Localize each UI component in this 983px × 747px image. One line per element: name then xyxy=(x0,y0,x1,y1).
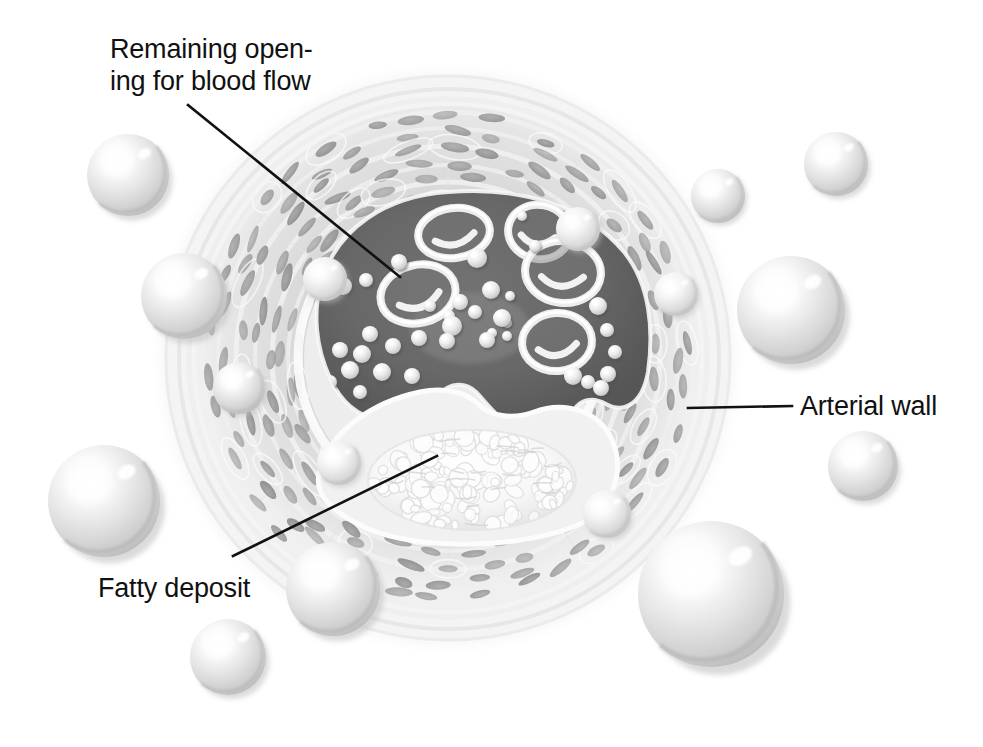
fat-droplet-highlight xyxy=(388,340,393,345)
fat-droplet xyxy=(359,273,373,287)
label-arterial-wall: Arterial wall xyxy=(800,391,937,421)
fat-globule-highlight xyxy=(812,142,843,169)
plaque-lobule xyxy=(492,449,501,458)
fat-droplet xyxy=(385,338,401,354)
fatty-deposit-plaque xyxy=(318,390,617,544)
fat-globule-highlight xyxy=(837,442,871,471)
fat-droplet xyxy=(353,385,367,399)
fat-droplet-highlight xyxy=(426,302,430,306)
fat-droplet-highlight xyxy=(519,213,522,216)
fat-droplet xyxy=(600,323,614,337)
fat-droplet-highlight xyxy=(507,293,510,296)
fat-globule-highlight xyxy=(657,543,727,604)
fat-globule-highlight xyxy=(98,146,137,180)
fat-droplet-highlight xyxy=(414,332,419,337)
fat-droplet-highlight xyxy=(335,344,340,349)
fat-droplet-highlight xyxy=(356,348,362,354)
fat-droplet xyxy=(564,367,582,385)
fat-droplet-highlight xyxy=(611,347,616,352)
fat-droplet-highlight xyxy=(407,370,412,375)
fat-droplet xyxy=(467,248,487,268)
fat-droplet xyxy=(493,309,511,327)
fat-droplet-highlight xyxy=(584,377,589,382)
fat-droplet xyxy=(452,294,468,310)
plaque-lobule xyxy=(490,477,499,486)
fat-globule-highlight xyxy=(200,630,236,662)
fat-droplet xyxy=(439,333,455,349)
fat-droplet-highlight xyxy=(567,370,573,376)
fat-droplet xyxy=(468,305,482,319)
fat-globule-highlight xyxy=(660,279,681,297)
fat-droplet-highlight xyxy=(394,256,399,261)
fat-globule-highlight xyxy=(152,266,193,302)
fat-droplet-highlight xyxy=(471,251,478,258)
fat-droplet xyxy=(411,330,427,346)
fat-droplet-highlight xyxy=(603,368,608,373)
fat-droplet-highlight xyxy=(482,334,487,339)
fat-droplet-highlight xyxy=(362,275,367,280)
atherosclerosis-illustration: Remaining open-ing for blood flowArteria… xyxy=(0,0,983,747)
fat-droplet-highlight xyxy=(592,300,598,306)
fat-droplet-highlight xyxy=(344,364,350,370)
fat-droplet-highlight xyxy=(365,328,370,333)
fat-droplet xyxy=(362,326,378,342)
fat-globule-highlight xyxy=(562,214,583,232)
fat-globule-highlight xyxy=(323,448,344,466)
fat-droplet-highlight xyxy=(376,366,382,372)
fat-globule-highlight xyxy=(309,264,330,282)
fat-droplet xyxy=(589,297,607,315)
plaque-lobule xyxy=(410,505,419,512)
fat-globule-highlight xyxy=(751,272,803,317)
fat-droplet-highlight xyxy=(446,319,453,326)
fat-droplet xyxy=(593,380,609,396)
fat-droplet xyxy=(482,281,500,299)
fat-droplet xyxy=(404,368,420,384)
plaque-crevice xyxy=(533,483,553,484)
fat-droplet xyxy=(353,345,371,363)
fat-globule-highlight xyxy=(63,462,117,509)
fat-droplet xyxy=(479,332,495,348)
fat-droplet-highlight xyxy=(596,382,601,387)
fat-droplet-highlight xyxy=(496,312,502,318)
fat-droplet-highlight xyxy=(356,387,361,392)
fat-droplet xyxy=(581,375,595,389)
fat-droplet-highlight xyxy=(471,307,476,312)
fat-droplet xyxy=(373,363,391,381)
fat-droplet-highlight xyxy=(485,284,491,290)
fat-droplet-highlight xyxy=(603,325,608,330)
fat-droplet xyxy=(517,211,527,221)
fat-droplet xyxy=(391,254,407,270)
fat-droplet xyxy=(332,342,348,358)
fat-droplet-highlight xyxy=(531,242,535,246)
fat-droplet xyxy=(442,316,462,336)
fat-droplet-highlight xyxy=(455,296,460,301)
plaque-lobule xyxy=(552,471,559,482)
fat-droplet xyxy=(600,366,616,382)
label-fatty-deposit: Fatty deposit xyxy=(98,573,251,603)
fat-droplet xyxy=(502,331,512,341)
label-remaining-opening: Remaining open- xyxy=(110,34,313,64)
fat-droplet xyxy=(529,240,541,252)
fat-globule-highlight xyxy=(698,177,724,200)
fat-droplet-highlight xyxy=(442,335,447,340)
fat-globule-highlight xyxy=(220,370,245,392)
fat-droplet xyxy=(341,361,359,379)
fat-droplet-highlight xyxy=(504,333,507,336)
fat-droplet-highlight xyxy=(445,312,449,316)
fat-globule-highlight xyxy=(298,556,343,595)
fat-droplet xyxy=(608,345,622,359)
fat-droplet xyxy=(505,291,515,301)
fat-globule-highlight xyxy=(589,497,612,517)
fat-droplet xyxy=(424,300,436,312)
label-remaining-opening-line2: ing for blood flow xyxy=(110,66,311,96)
plaque-crevice xyxy=(531,448,544,449)
